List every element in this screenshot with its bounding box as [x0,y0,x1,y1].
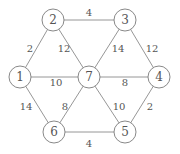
nodes-layer: 1234567 [9,9,170,143]
edge-weight-label: 8 [122,77,128,88]
node-label: 4 [155,70,163,84]
edge-weight-label: 8 [62,101,68,112]
edge-weight-label: 12 [146,43,159,54]
node-6: 6 [43,121,65,143]
edge-weight-label: 2 [147,101,153,112]
edge-weight-label: 14 [20,101,33,112]
node-label: 7 [85,70,93,84]
edge-weight-label: 10 [50,77,63,88]
edge-weight-label: 12 [58,43,71,54]
weighted-graph-diagram: 421214121081481024 1234567 [0,0,180,154]
edge-weight-label: 4 [86,7,92,18]
node-label: 3 [121,13,129,27]
node-1: 1 [9,66,31,88]
node-label: 1 [16,70,24,84]
edge-weight-label: 14 [112,43,125,54]
edge-weight-label: 4 [86,138,92,149]
edge-weight-label: 2 [27,43,33,54]
node-4: 4 [148,66,170,88]
node-label: 5 [121,125,129,139]
edge-weight-label: 10 [113,101,126,112]
node-label: 2 [49,13,57,27]
node-5: 5 [114,121,136,143]
node-3: 3 [114,9,136,31]
node-label: 6 [50,125,58,139]
node-2: 2 [42,9,64,31]
node-7: 7 [78,66,100,88]
